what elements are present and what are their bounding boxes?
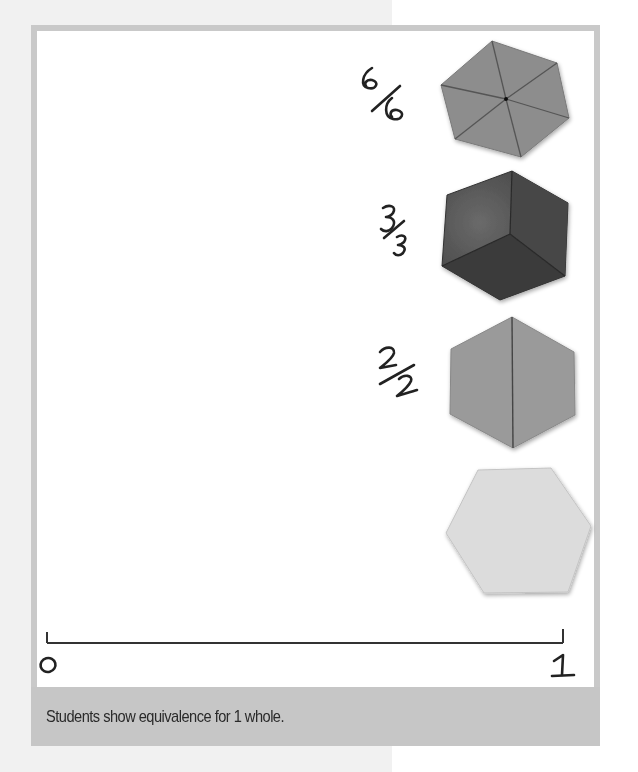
number-line-label-1-glyph <box>552 655 574 676</box>
hexagon-thirds <box>442 171 568 300</box>
fraction-label-3-3 <box>381 206 405 255</box>
fraction-label-2-2 <box>380 348 417 396</box>
center-dot <box>504 97 508 101</box>
fraction-label-6-6 <box>363 68 402 119</box>
hexagon-sixths <box>441 41 569 157</box>
hexagon-halves <box>450 317 575 448</box>
number-line <box>47 629 563 643</box>
halves-divider-line <box>512 317 513 448</box>
hexagon-whole <box>446 468 591 593</box>
figure-artwork <box>0 0 638 772</box>
number-line-label-0-glyph <box>39 656 57 673</box>
